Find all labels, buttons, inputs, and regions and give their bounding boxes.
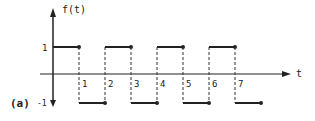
x-tick-label: 7 <box>238 79 243 89</box>
y-axis-arrow-icon <box>50 8 56 17</box>
y-axis-label: f(t) <box>62 4 86 15</box>
axes <box>40 8 291 107</box>
x-axis-label: t <box>296 68 302 79</box>
y-tick-label-1: 1 <box>42 43 47 53</box>
square-wave-chart: f(t) t 1 -1 (a) 1234567 <box>0 0 315 121</box>
x-tick-label: 2 <box>108 79 113 89</box>
x-tick-labels: 1234567 <box>82 79 243 89</box>
y-axis-bottom-arrow-icon <box>50 100 56 107</box>
figure-label: (a) <box>10 97 30 110</box>
x-tick-label: 5 <box>186 79 191 89</box>
y-tick-label-neg1: -1 <box>37 99 47 108</box>
x-tick-label: 6 <box>212 79 217 89</box>
segment-end-dot <box>259 101 263 105</box>
x-tick-label: 3 <box>134 79 139 89</box>
x-tick-label: 1 <box>82 79 87 89</box>
x-tick-label: 4 <box>160 79 165 89</box>
x-axis-arrow-icon <box>282 71 291 77</box>
square-wave-series <box>53 45 263 105</box>
